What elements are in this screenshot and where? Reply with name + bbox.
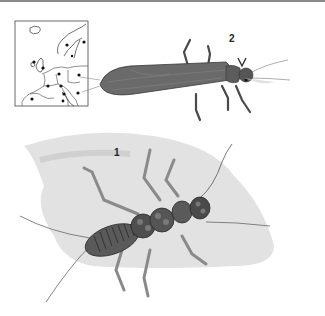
illustration-plate	[0, 0, 325, 316]
adult-stonefly	[80, 40, 290, 120]
figure-label-2: 2	[229, 34, 235, 44]
distribution-map	[15, 21, 88, 106]
figure-label-1: 1	[114, 148, 120, 158]
stonefly-nymph	[20, 133, 274, 302]
